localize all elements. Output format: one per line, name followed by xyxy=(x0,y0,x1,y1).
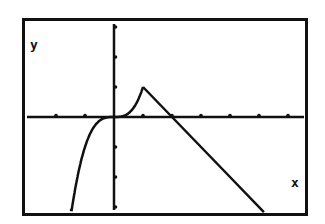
plot-curves xyxy=(70,87,264,212)
cubic-curve xyxy=(70,87,143,210)
y-axis-label: y xyxy=(30,38,38,51)
graph-canvas xyxy=(0,0,325,224)
linear-segment xyxy=(143,87,264,212)
x-axis-label: x xyxy=(291,176,299,189)
